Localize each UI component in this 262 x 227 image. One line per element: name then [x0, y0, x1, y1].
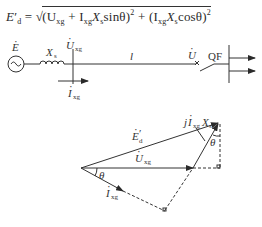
- current-phasor-dashed: [123, 191, 165, 211]
- svg-text:·: ·: [137, 145, 141, 157]
- svg-text:·: ·: [14, 35, 18, 47]
- circuit-labels: E · X s U · xg I · xg l U · QF: [11, 32, 222, 101]
- breaker-label: QF: [208, 50, 222, 62]
- fault-mark-icon: [195, 61, 199, 65]
- svg-text:xg: xg: [144, 158, 152, 166]
- reactive-drop-label: j I · xg X s: [182, 109, 212, 130]
- svg-text:j: j: [182, 116, 187, 128]
- inductor-icon: [40, 61, 67, 64]
- svg-text:xg: xg: [111, 193, 119, 201]
- svg-text:s: s: [54, 52, 57, 60]
- svg-text:·: ·: [69, 80, 73, 92]
- angle-label-tip: θ: [210, 136, 216, 148]
- svg-text:xg: xg: [73, 93, 81, 101]
- svg-text:·: ·: [190, 42, 194, 54]
- perpendicular-dashed: [165, 168, 193, 210]
- svg-text:·: ·: [68, 32, 72, 44]
- breaker-switch-icon: [200, 64, 214, 71]
- svg-text:s: s: [209, 122, 212, 130]
- reactance-label: X: [45, 46, 54, 58]
- svg-text:xg: xg: [75, 45, 83, 53]
- diagram-canvas: E · X s U · xg I · xg l U · QF: [0, 0, 262, 227]
- phasor-diagram: [81, 123, 220, 211]
- svg-text:·: ·: [134, 123, 138, 135]
- line-label: l: [130, 50, 133, 62]
- ac-tilde-icon: [11, 62, 21, 66]
- angle-label-origin: θ: [99, 169, 105, 181]
- svg-text:d: d: [139, 137, 143, 145]
- angle-arc-origin: [95, 168, 97, 176]
- svg-text:xg: xg: [193, 122, 201, 130]
- svg-text:·: ·: [189, 109, 193, 121]
- svg-text:·: ·: [107, 180, 111, 192]
